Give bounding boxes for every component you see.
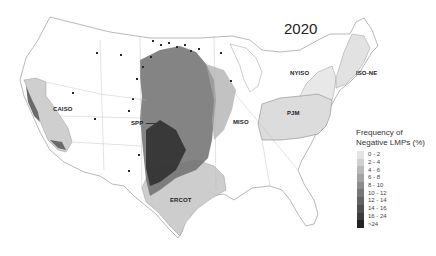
legend-item: 12 - 14 xyxy=(357,197,425,205)
legend-items: 0 - 2 2 - 4 4 - 6 6 - 8 8 - 10 10 - 12 1… xyxy=(357,151,425,228)
legend-swatch xyxy=(357,151,364,159)
label-isone: ISO-NE xyxy=(356,70,377,76)
spp-arrow xyxy=(146,123,156,124)
legend-swatch xyxy=(357,220,364,228)
legend-title-line2: Negative LMPs (%) xyxy=(356,138,425,148)
label-nyiso: NYISO xyxy=(290,70,309,76)
legend-item: 14 - 16 xyxy=(357,205,425,213)
legend-item: 0 - 2 xyxy=(357,151,425,159)
legend-swatch xyxy=(357,189,364,197)
label-pjm: PJM xyxy=(287,110,300,116)
legend-swatch xyxy=(357,166,364,174)
label-ercot: ERCOT xyxy=(170,197,192,203)
legend-swatch xyxy=(357,197,364,205)
legend-swatch xyxy=(357,159,364,167)
legend-item: 4 - 6 xyxy=(357,166,425,174)
label-caiso: CAISO xyxy=(53,106,73,112)
legend-swatch xyxy=(357,182,364,190)
legend-item: 10 - 12 xyxy=(357,189,425,197)
legend-item: 8 - 10 xyxy=(357,182,425,190)
legend-title-line1: Frequency of xyxy=(356,128,425,138)
label-spp: SPP xyxy=(131,120,143,126)
legend: Frequency of Negative LMPs (%) 0 - 2 2 -… xyxy=(356,128,425,228)
label-miso: MISO xyxy=(233,119,249,125)
legend-swatch xyxy=(357,174,364,182)
legend-item: 6 - 8 xyxy=(357,174,425,182)
legend-swatch xyxy=(357,213,364,221)
legend-item: 16 - 24 xyxy=(357,213,425,221)
legend-item: >24 xyxy=(357,220,425,228)
legend-item: 2 - 4 xyxy=(357,159,425,167)
map-year-title: 2020 xyxy=(284,20,317,37)
legend-swatch xyxy=(357,205,364,213)
